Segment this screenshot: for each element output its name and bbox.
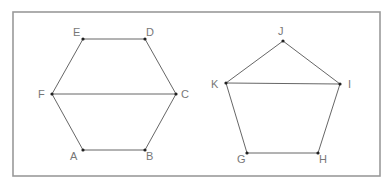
edge-FA	[52, 94, 83, 150]
vertex-point-F	[50, 92, 53, 95]
vertex-point-G	[245, 151, 248, 154]
vertex-label-K: K	[211, 78, 219, 90]
vertex-point-C	[174, 92, 177, 95]
vertex-label-A: A	[70, 150, 78, 162]
vertex-label-C: C	[181, 88, 189, 100]
edge-BC	[145, 94, 176, 150]
vertex-point-E	[81, 37, 84, 40]
geometry-diagram: A B C D E F G H I J K	[0, 0, 390, 187]
vertex-label-B: B	[146, 150, 153, 162]
vertex-point-I	[338, 82, 341, 85]
pentagon-figure: G H I J K	[211, 25, 351, 165]
edge-KI	[226, 83, 340, 84]
edge-KG	[226, 83, 247, 153]
vertex-label-J: J	[278, 25, 284, 37]
vertex-label-F: F	[38, 88, 45, 100]
vertex-point-A	[81, 148, 84, 151]
edge-IJ	[283, 41, 340, 84]
hexagon-figure: A B C D E F	[38, 26, 189, 162]
vertex-label-I: I	[348, 78, 351, 90]
vertex-point-K	[224, 81, 227, 84]
vertex-point-J	[281, 39, 284, 42]
edge-JK	[226, 41, 283, 83]
edge-CD	[145, 39, 176, 94]
edge-EF	[52, 39, 83, 94]
vertex-label-D: D	[146, 26, 154, 38]
vertex-label-E: E	[73, 26, 80, 38]
vertex-label-H: H	[319, 153, 327, 165]
vertex-label-G: G	[237, 153, 246, 165]
edge-HI	[318, 84, 340, 153]
